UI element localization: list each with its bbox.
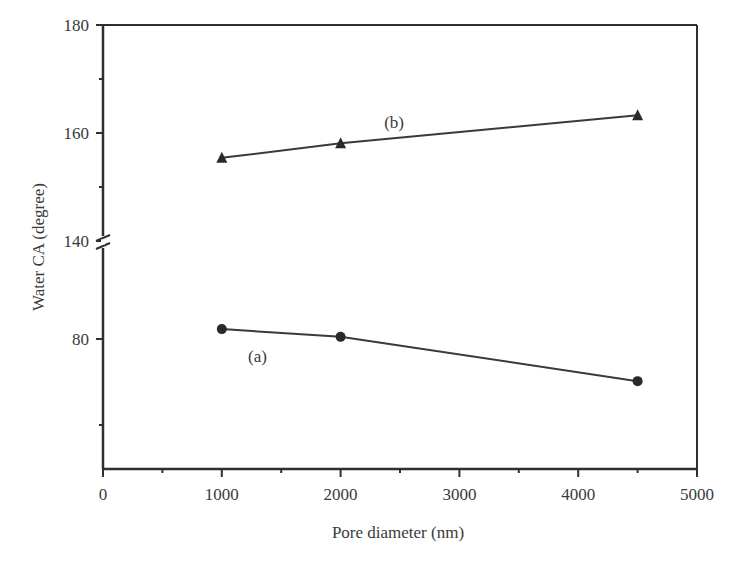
circle-marker-icon <box>633 376 643 386</box>
y-tick-label: 160 <box>64 124 90 143</box>
series-annotation: (a) <box>248 347 267 366</box>
y-axis-ticks: 18016014080 <box>64 16 104 425</box>
x-tick-label: 1000 <box>205 485 239 504</box>
y-tick-label: 140 <box>64 232 90 251</box>
x-tick-label: 3000 <box>442 485 476 504</box>
x-tick-label: 0 <box>99 485 108 504</box>
series-line <box>222 115 638 158</box>
x-axis-title: Pore diameter (nm) <box>332 523 464 542</box>
y-tick-label: 80 <box>72 330 89 349</box>
series-line <box>222 329 638 381</box>
series-a <box>217 324 643 386</box>
contact-angle-chart: 010002000300040005000 18016014080 (a)(b)… <box>0 0 737 563</box>
plot-frame <box>103 25 697 469</box>
series-b <box>216 109 643 163</box>
circle-marker-icon <box>336 332 346 342</box>
x-tick-label: 5000 <box>680 485 714 504</box>
data-series: (a)(b) <box>216 109 643 386</box>
x-tick-label: 2000 <box>324 485 358 504</box>
circle-marker-icon <box>217 324 227 334</box>
series-annotation: (b) <box>384 113 404 132</box>
x-axis-ticks: 010002000300040005000 <box>99 469 714 504</box>
x-tick-label: 4000 <box>561 485 595 504</box>
y-axis-title: Water CA (degree) <box>29 183 48 311</box>
y-tick-label: 180 <box>64 16 90 35</box>
